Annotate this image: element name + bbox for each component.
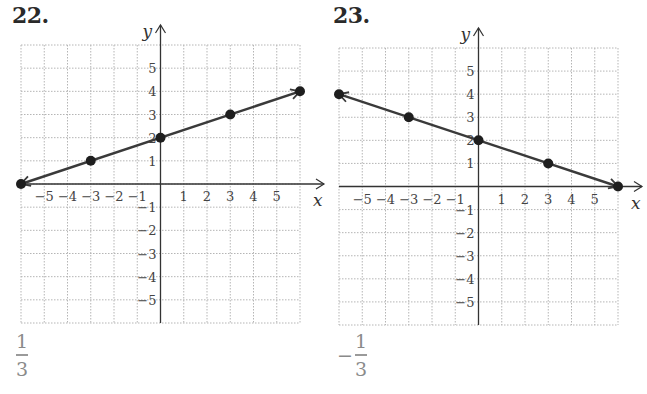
svg-text:−5: −5 bbox=[35, 189, 54, 204]
svg-text:−5: −5 bbox=[353, 192, 372, 207]
svg-text:−5: −5 bbox=[455, 295, 474, 310]
svg-text:−2: −2 bbox=[422, 192, 441, 207]
data-point bbox=[16, 179, 26, 189]
svg-text:−2: −2 bbox=[455, 226, 474, 241]
denominator: 3 bbox=[16, 358, 28, 380]
svg-text:−4: −4 bbox=[376, 192, 395, 207]
fraction-bar bbox=[16, 354, 28, 356]
svg-text:5: 5 bbox=[466, 64, 474, 79]
graph-22: xy−5−4−3−2−112345−5−4−3−2−112345 bbox=[16, 21, 324, 323]
answer-fraction: 1 3 bbox=[16, 330, 28, 380]
svg-text:−1: −1 bbox=[137, 200, 156, 215]
data-point bbox=[613, 182, 623, 192]
data-point bbox=[543, 158, 553, 168]
answer-sign: − bbox=[337, 344, 353, 366]
data-point bbox=[295, 86, 305, 96]
svg-text:−3: −3 bbox=[399, 192, 418, 207]
denominator: 3 bbox=[355, 358, 367, 380]
svg-text:3: 3 bbox=[226, 189, 234, 204]
data-point bbox=[474, 135, 484, 145]
data-point bbox=[404, 112, 414, 122]
x-axis-label: x bbox=[631, 193, 641, 213]
data-point bbox=[86, 156, 96, 166]
svg-text:4: 4 bbox=[466, 87, 474, 102]
svg-text:5: 5 bbox=[148, 61, 156, 76]
y-axis-label: y bbox=[460, 24, 471, 44]
svg-text:−4: −4 bbox=[58, 189, 77, 204]
svg-text:−4: −4 bbox=[137, 270, 156, 285]
data-point bbox=[334, 89, 344, 99]
svg-text:−2: −2 bbox=[137, 223, 156, 238]
svg-text:5: 5 bbox=[273, 189, 281, 204]
svg-text:3: 3 bbox=[148, 108, 156, 123]
answer-fraction: 1 3 bbox=[355, 330, 367, 380]
svg-text:1: 1 bbox=[466, 156, 474, 171]
svg-text:−1: −1 bbox=[455, 203, 474, 218]
svg-text:−2: −2 bbox=[104, 189, 123, 204]
fraction-bar bbox=[355, 354, 367, 356]
x-axis-label: x bbox=[313, 190, 323, 210]
answer-22: 1 3 bbox=[14, 330, 28, 380]
data-point bbox=[225, 110, 235, 120]
svg-text:3: 3 bbox=[466, 110, 474, 125]
svg-text:1: 1 bbox=[180, 189, 188, 204]
numerator: 1 bbox=[355, 330, 367, 352]
graph-23: xy−5−4−3−2−112345−5−4−3−2−112345 bbox=[334, 24, 642, 325]
svg-text:−3: −3 bbox=[455, 249, 474, 264]
numerator: 1 bbox=[16, 330, 28, 352]
svg-text:−4: −4 bbox=[455, 272, 474, 287]
data-point bbox=[156, 133, 166, 143]
answer-23: − 1 3 bbox=[337, 330, 367, 380]
svg-text:−5: −5 bbox=[137, 293, 156, 308]
svg-text:2: 2 bbox=[203, 189, 211, 204]
svg-text:−3: −3 bbox=[137, 247, 156, 262]
axes: xy bbox=[21, 21, 324, 323]
svg-text:1: 1 bbox=[498, 192, 506, 207]
svg-text:5: 5 bbox=[591, 192, 599, 207]
svg-text:1: 1 bbox=[148, 154, 156, 169]
y-axis-label: y bbox=[142, 21, 153, 41]
svg-text:4: 4 bbox=[567, 192, 575, 207]
svg-text:−3: −3 bbox=[81, 189, 100, 204]
axes: xy bbox=[339, 24, 642, 325]
svg-text:4: 4 bbox=[148, 84, 156, 99]
svg-text:2: 2 bbox=[521, 192, 529, 207]
graphs-canvas: xy−5−4−3−2−112345−5−4−3−2−112345xy−5−4−3… bbox=[0, 0, 647, 394]
svg-text:3: 3 bbox=[544, 192, 552, 207]
svg-text:4: 4 bbox=[249, 189, 257, 204]
